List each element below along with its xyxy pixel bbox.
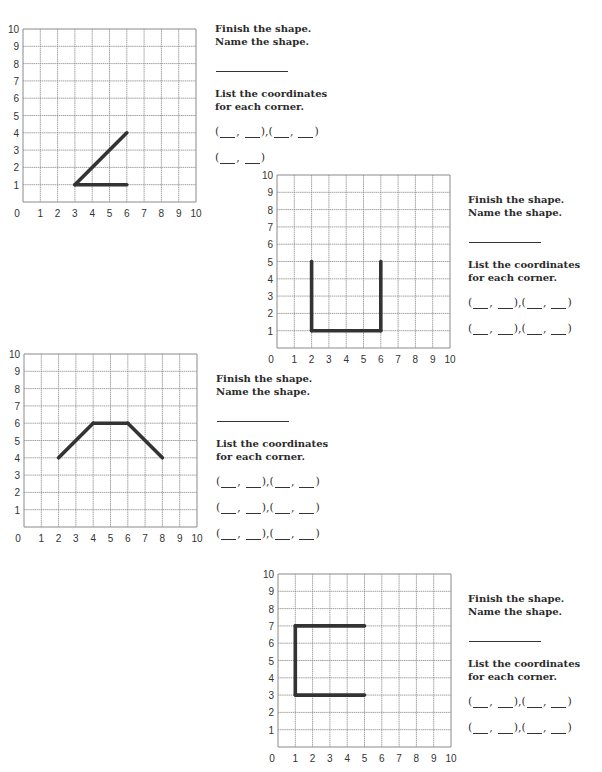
x-tick-label: 2 — [310, 753, 316, 764]
grid-svg: 01234567891012345678910 — [255, 567, 460, 767]
coordinate-blank[interactable] — [551, 699, 566, 708]
y-tick-label: 7 — [267, 222, 273, 233]
open-paren: ( — [270, 501, 274, 514]
list-prompt-line1: List the coordinates — [215, 87, 327, 100]
y-tick-label: 8 — [14, 384, 20, 395]
x-tick-label: 4 — [89, 208, 95, 219]
comma: , — [237, 501, 241, 514]
coordinate-blank[interactable] — [473, 326, 488, 335]
open-paren: ( — [216, 527, 220, 540]
coordinate-blank[interactable] — [221, 505, 236, 514]
coordinate-blank[interactable] — [299, 505, 314, 514]
coordinate-blank[interactable] — [551, 326, 566, 335]
comma: , — [489, 721, 493, 734]
x-tick-label: 1 — [38, 208, 44, 219]
y-tick-label: 8 — [13, 59, 19, 70]
x-tick-label: 6 — [378, 354, 384, 365]
coordinate-pair: (,), — [216, 501, 270, 514]
comma: , — [543, 695, 547, 708]
coordinate-blank[interactable] — [275, 531, 290, 540]
y-tick-label: 1 — [14, 505, 20, 516]
coordinate-blank[interactable] — [527, 300, 542, 309]
coordinate-blank[interactable] — [473, 300, 488, 309]
close-paren: ) — [315, 501, 319, 514]
coordinate-blank[interactable] — [527, 326, 542, 335]
coordinate-blank[interactable] — [245, 155, 260, 164]
coordinate-blank[interactable] — [299, 479, 314, 488]
coordinate-grid-4: 01234567891012345678910 — [255, 567, 460, 767]
coordinate-blank[interactable] — [246, 505, 261, 514]
grid-svg: 01234567891012345678910 — [0, 22, 205, 222]
coordinate-blank[interactable] — [498, 326, 513, 335]
coordinate-blank[interactable] — [221, 531, 236, 540]
coordinate-blank[interactable] — [299, 531, 314, 540]
open-paren: ( — [269, 125, 273, 138]
x-tick-label: 10 — [190, 208, 202, 219]
coordinate-blank[interactable] — [498, 699, 513, 708]
y-tick-label: 5 — [13, 111, 19, 122]
y-tick-label: 10 — [263, 569, 275, 580]
coordinate-row: (,) — [215, 151, 327, 164]
x-tick-label: 9 — [431, 753, 437, 764]
y-tick-label: 5 — [268, 656, 274, 667]
coordinate-blank[interactable] — [245, 129, 260, 138]
coordinate-blank[interactable] — [551, 300, 566, 309]
coordinate-blank[interactable] — [220, 129, 235, 138]
instructions-4: Finish the shape. Name the shape. List t… — [468, 592, 580, 734]
coordinate-blank[interactable] — [246, 531, 261, 540]
x-tick-label: 7 — [396, 753, 402, 764]
coordinate-blank[interactable] — [498, 300, 513, 309]
coordinate-blank[interactable] — [473, 725, 488, 734]
coordinate-pair: (,), — [468, 695, 522, 708]
coordinate-blank[interactable] — [274, 129, 289, 138]
y-tick-label: 10 — [262, 170, 274, 181]
x-tick-label: 6 — [125, 533, 131, 544]
x-tick-label: 5 — [107, 208, 113, 219]
list-prompt-line1: List the coordinates — [468, 258, 580, 271]
coordinate-pair: (,), — [468, 721, 522, 734]
close-paren: ) — [314, 125, 318, 138]
coordinate-answers: (,), (,)(,), (,) — [468, 695, 580, 734]
open-paren: ( — [468, 721, 472, 734]
list-prompt-line2: for each corner. — [468, 271, 580, 284]
coordinate-row: (,), (,) — [216, 501, 328, 514]
coordinate-grid-1: 01234567891012345678910 — [0, 22, 205, 222]
coordinate-blank[interactable] — [221, 479, 236, 488]
name-prompt: Name the shape. — [215, 35, 327, 48]
grid-svg: 01234567891012345678910 — [254, 168, 459, 368]
x-tick-label: 4 — [343, 354, 349, 365]
instructions-2: Finish the shape. Name the shape. List t… — [468, 193, 580, 335]
y-tick-label: 2 — [267, 308, 273, 319]
coordinate-blank[interactable] — [527, 699, 542, 708]
shape-name-answer-line[interactable] — [217, 421, 289, 422]
open-paren: ( — [522, 721, 526, 734]
y-tick-label: 3 — [267, 291, 273, 302]
coordinate-blank[interactable] — [527, 725, 542, 734]
coordinate-pair: (,) — [522, 322, 572, 335]
list-prompt-line2: for each corner. — [216, 450, 328, 463]
y-tick-label: 4 — [13, 128, 19, 139]
shape-name-answer-line[interactable] — [469, 242, 541, 243]
coordinate-blank[interactable] — [498, 725, 513, 734]
y-tick-label: 10 — [8, 24, 20, 35]
coordinate-blank[interactable] — [275, 505, 290, 514]
coordinate-row: (,), (,) — [468, 296, 580, 309]
coordinate-blank[interactable] — [473, 699, 488, 708]
x-tick-label: 2 — [309, 354, 315, 365]
coordinate-answers: (,), (,)(,), (,)(,), (,) — [216, 475, 328, 540]
comma: , — [543, 721, 547, 734]
open-paren: ( — [522, 322, 526, 335]
shape-name-answer-line[interactable] — [216, 71, 288, 72]
coordinate-blank[interactable] — [551, 725, 566, 734]
y-tick-label: 3 — [14, 470, 20, 481]
x-tick-label: 2 — [55, 208, 61, 219]
coordinate-blank[interactable] — [275, 479, 290, 488]
comma: , — [543, 296, 547, 309]
coordinate-blank[interactable] — [220, 155, 235, 164]
name-prompt: Name the shape. — [468, 206, 580, 219]
shape-name-answer-line[interactable] — [469, 641, 541, 642]
coordinate-pair: (,) — [270, 475, 320, 488]
coordinate-blank[interactable] — [298, 129, 313, 138]
y-tick-label: 5 — [14, 436, 20, 447]
coordinate-blank[interactable] — [246, 479, 261, 488]
